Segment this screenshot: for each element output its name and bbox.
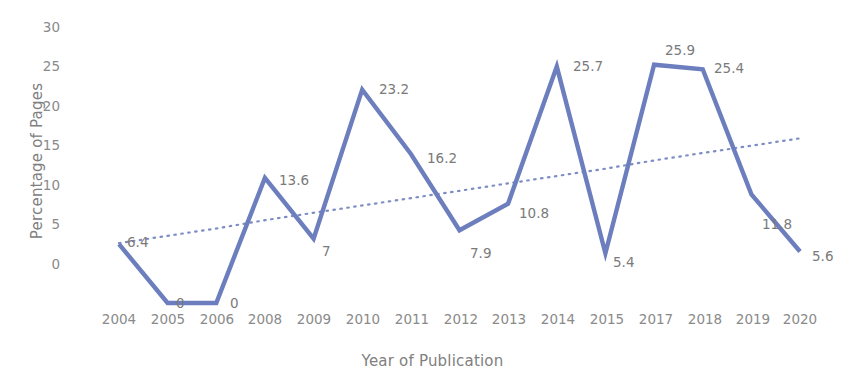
- x-axis-tick-2012: 2012: [438, 313, 484, 327]
- data-label-2006: 0: [230, 297, 239, 311]
- x-axis-tick-2013: 2013: [486, 313, 532, 327]
- data-series-line: [119, 65, 800, 303]
- data-label-2004: 6.4: [127, 236, 148, 250]
- data-label-2017: 25.9: [665, 44, 695, 58]
- x-axis-tick-2018: 2018: [682, 313, 728, 327]
- x-axis-tick-2010: 2010: [340, 313, 386, 327]
- x-axis-tick-2009: 2009: [291, 313, 337, 327]
- data-label-2012: 7.9: [470, 247, 491, 261]
- data-label-2011: 16.2: [427, 152, 457, 166]
- x-axis-tick-2004: 2004: [96, 313, 142, 327]
- data-label-2020: 5.6: [812, 250, 833, 264]
- data-label-2014: 25.7: [573, 60, 603, 74]
- x-axis-tick-2006: 2006: [194, 313, 240, 327]
- data-label-2009: 7: [322, 245, 331, 259]
- plot-area: [0, 0, 865, 390]
- data-label-2015: 5.4: [613, 256, 634, 270]
- x-axis-tick-2015: 2015: [584, 313, 630, 327]
- data-label-2005: 0: [176, 297, 185, 311]
- x-axis-tick-2008: 2008: [242, 313, 288, 327]
- data-label-2019: 11.8: [762, 218, 792, 232]
- x-axis-tick-2014: 2014: [535, 313, 581, 327]
- data-label-2013: 10.8: [519, 207, 549, 221]
- x-axis-tick-2017: 2017: [633, 313, 679, 327]
- x-axis-tick-2005: 2005: [145, 313, 191, 327]
- chart-container: Percentage of Pages Year of Publication …: [0, 0, 865, 390]
- data-label-2018: 25.4: [714, 62, 744, 76]
- data-label-2010: 23.2: [379, 83, 409, 97]
- data-label-2008: 13.6: [279, 174, 309, 188]
- x-axis-tick-2020: 2020: [777, 313, 823, 327]
- x-axis-tick-2019: 2019: [730, 313, 776, 327]
- x-axis-tick-2011: 2011: [389, 313, 435, 327]
